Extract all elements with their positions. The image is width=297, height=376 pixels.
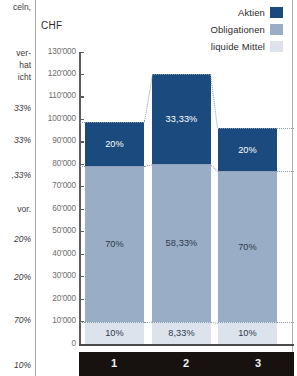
x-axis-line <box>79 344 294 346</box>
y-tick-label: 20'000 <box>32 294 76 303</box>
bleed-line: 20% <box>14 272 31 282</box>
segment-percent-label: 33,33% <box>166 114 198 124</box>
connector-line <box>277 128 294 129</box>
segment-percent-label: 70% <box>238 242 257 252</box>
bar-segment-obligationen: 58,33% <box>152 164 211 321</box>
y-tick-mark <box>79 52 84 53</box>
connector-line <box>218 171 277 172</box>
y-tick-label: 70'000 <box>32 181 76 190</box>
segment-percent-label: 8,33% <box>168 328 195 338</box>
bar-segment-aktien: 33,33% <box>152 74 211 164</box>
y-tick-mark <box>79 74 84 75</box>
bleed-line: icht <box>18 72 31 82</box>
connector-line <box>277 171 294 172</box>
connector-line <box>210 74 218 128</box>
bar-segment-aktien: 20% <box>218 128 277 171</box>
segment-percent-label: 10% <box>238 328 257 338</box>
bleed-line: 33% <box>14 103 31 113</box>
bleed-line: celn, <box>13 2 31 12</box>
bar-column: 8,33%58,33%33,33% <box>152 0 211 344</box>
segment-percent-label: 20% <box>238 145 257 155</box>
connector-line <box>144 164 152 167</box>
bar-segment-aktien: 20% <box>85 122 144 166</box>
segment-percent-label: 20% <box>105 139 124 149</box>
y-tick-mark <box>79 209 84 210</box>
segment-percent-label: 10% <box>105 328 124 338</box>
bleed-line: hat <box>19 60 31 70</box>
y-tick-mark <box>79 276 84 277</box>
y-tick-mark <box>79 231 84 232</box>
connector-line <box>85 166 144 167</box>
bleed-line: 10% <box>14 360 31 370</box>
bleed-line: ver- <box>16 48 31 58</box>
y-tick-mark <box>79 96 84 97</box>
bleed-line: vor. <box>17 204 31 214</box>
connector-line <box>152 74 211 75</box>
bleed-line: 70% <box>14 315 31 325</box>
y-tick-label: 100'000 <box>32 114 76 123</box>
y-tick-mark <box>79 141 84 142</box>
connector-line <box>218 128 277 129</box>
y-tick-label: 30'000 <box>32 271 76 280</box>
bleed-line: ,33% <box>12 170 31 180</box>
connector-line <box>211 322 218 324</box>
y-tick-label: 120'000 <box>32 69 76 78</box>
connector-line <box>85 122 144 123</box>
x-tick-label: 3 <box>243 357 273 369</box>
left-margin-bleed-text: celn, ver- hat icht 33% 33% ,33% vor. 20… <box>0 0 33 376</box>
connector-line <box>144 322 152 323</box>
x-tick-label: 1 <box>99 357 129 369</box>
segment-percent-label: 58,33% <box>166 238 198 248</box>
connector-line <box>210 164 218 172</box>
y-tick-mark <box>79 119 84 120</box>
x-axis-category-band: 1 2 3 <box>79 352 294 376</box>
segment-percent-label: 70% <box>105 239 124 249</box>
y-tick-label: 110'000 <box>32 91 76 100</box>
bleed-line: 20% <box>14 234 31 244</box>
connector-line <box>277 322 294 323</box>
x-tick-label: 2 <box>171 357 201 369</box>
bar-column: 10%70%20% <box>85 0 144 344</box>
bleed-line: 33% <box>14 135 31 145</box>
y-tick-mark <box>79 299 84 300</box>
y-tick-mark <box>79 254 84 255</box>
y-axis-title: CHF <box>41 20 62 31</box>
y-tick-label: 130'000 <box>32 47 76 56</box>
y-tick-label: 80'000 <box>32 159 76 168</box>
bar-segment-liquide-mittel: 10% <box>218 322 277 344</box>
connector-line <box>152 322 211 323</box>
y-tick-label: 50'000 <box>32 226 76 235</box>
y-tick-mark <box>79 164 84 165</box>
y-tick-label: 90'000 <box>32 136 76 145</box>
bar-segment-liquide-mittel: 8,33% <box>152 322 211 344</box>
connector-line <box>218 322 277 323</box>
stacked-bar-chart: CHF 130'000120'000110'000100'00090'00080… <box>36 0 294 376</box>
y-tick-label: 60'000 <box>32 204 76 213</box>
bar-segment-obligationen: 70% <box>218 171 277 322</box>
y-tick-mark <box>79 186 84 187</box>
connector-line <box>85 322 144 323</box>
y-tick-label: 10'000 <box>32 316 76 325</box>
bar-segment-obligationen: 70% <box>85 166 144 322</box>
bar-segment-liquide-mittel: 10% <box>85 322 144 344</box>
y-tick-label: 40'000 <box>32 249 76 258</box>
connector-line <box>152 164 211 165</box>
y-tick-label: 0 <box>32 339 76 348</box>
